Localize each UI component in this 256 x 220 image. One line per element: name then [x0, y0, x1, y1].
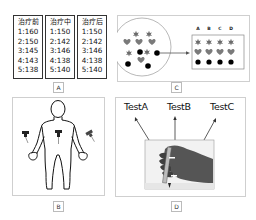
panel-label-a: A	[53, 82, 64, 93]
column-label-d: D	[229, 26, 233, 31]
table-cell: 2:142	[78, 37, 106, 47]
table-column-before: 治疗前 1:160 2:150 3:145 4:143 5:138	[13, 15, 43, 79]
sorting-diagram: A B C D	[117, 15, 249, 81]
column-label-c: C	[218, 26, 222, 31]
panel-label-d: D	[171, 201, 182, 212]
pushpin-abdomen-icon	[55, 130, 62, 144]
table-cell: 3:146	[78, 46, 106, 56]
panel-label-c: C	[171, 82, 182, 93]
column-header: 治疗中	[46, 18, 74, 27]
body-outline-diagram	[12, 97, 104, 195]
table-cell: 4:138	[78, 56, 106, 66]
hand-with-test-tube-photo	[145, 140, 214, 189]
table-cell: 5:138	[14, 65, 42, 75]
panel-label-b: B	[53, 201, 64, 212]
test-arrows-diagram	[115, 97, 245, 196]
table-cell: 2:150	[14, 37, 42, 47]
column-label-b: B	[207, 26, 211, 31]
pushpin-left-icon	[22, 131, 29, 143]
pushpin-right-icon	[85, 130, 97, 144]
column-header: 治疗前	[14, 18, 42, 27]
table-column-after: 治疗后 1:150 2:142 3:146 4:138 5:140	[77, 15, 107, 79]
table-cell: 4:138	[46, 56, 74, 66]
table-column-during: 治疗中 1:150 2:142 3:146 4:138 5:140	[45, 15, 75, 79]
table-cell: 4:143	[14, 56, 42, 66]
table-cell: 5:140	[46, 65, 74, 75]
column-label-a: A	[196, 26, 200, 31]
table-cell: 3:146	[46, 46, 74, 56]
table-cell: 5:140	[78, 65, 106, 75]
table-cell: 3:145	[14, 46, 42, 56]
table-cell: 2:142	[46, 37, 74, 47]
table-cell: 1:160	[14, 27, 42, 37]
table-cell: 1:150	[46, 27, 74, 37]
table-cell: 1:150	[78, 27, 106, 37]
column-header: 治疗后	[78, 18, 106, 27]
